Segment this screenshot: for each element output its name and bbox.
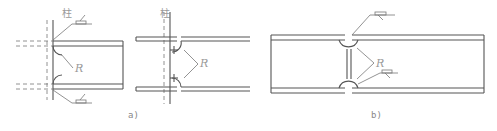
radius-label: R [199, 57, 208, 70]
caption-a: a) [128, 110, 139, 120]
scallop-arc [53, 75, 62, 84]
panel-b: R b) [271, 12, 484, 120]
beam-weld-diagram: R 柱 柱 R a [0, 0, 497, 131]
scallop-arc [53, 46, 62, 55]
column-label: 柱 [62, 7, 72, 19]
radius-label: R [375, 57, 384, 70]
radius-label: R [74, 62, 83, 75]
panel-a-right: 柱 R a) [128, 7, 250, 120]
caption-b: b) [371, 110, 382, 120]
weld-symbol-icon [76, 100, 86, 103]
panel-a-left: R 柱 [16, 7, 123, 103]
weld-symbol-icon [375, 12, 386, 15]
column-label: 柱 [160, 7, 170, 19]
weld-symbol-icon [76, 21, 86, 24]
weld-symbol-icon [382, 70, 392, 73]
